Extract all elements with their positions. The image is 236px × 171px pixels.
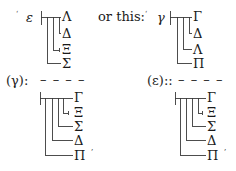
tree4-leaf: Γ bbox=[207, 91, 216, 104]
tree1-leaf: Σ bbox=[62, 57, 71, 70]
epsilon-label: (ε):: bbox=[147, 74, 173, 87]
tree3-lines bbox=[40, 92, 73, 155]
dash-placeholder: – – – – bbox=[40, 73, 85, 86]
open-quote: ‘ bbox=[16, 11, 18, 18]
tree3-leaf: Σ bbox=[74, 120, 83, 133]
close-quote: ’ bbox=[224, 149, 226, 156]
close-quote: ’ bbox=[91, 149, 93, 156]
tree1-leaf: Δ bbox=[62, 27, 71, 40]
tree1-leaf: Ξ bbox=[62, 43, 71, 56]
tree4-leaf: Δ bbox=[207, 134, 216, 147]
tree4-lines bbox=[175, 92, 206, 155]
connector-text: or this: bbox=[98, 10, 145, 23]
tree2-leaf: Δ bbox=[193, 27, 202, 40]
tree2-lines bbox=[170, 11, 192, 63]
tree3-leaf: Ξ bbox=[74, 106, 83, 119]
tree4-leaf: Π bbox=[207, 149, 218, 162]
tree3-leaf: Γ bbox=[74, 91, 83, 104]
tree1-root: ε bbox=[26, 11, 33, 24]
tree2-leaf: Γ bbox=[193, 10, 202, 23]
tree4-leaf: Ξ bbox=[207, 106, 216, 119]
tree3-leaf: Δ bbox=[74, 134, 83, 147]
tree2-leaf: Λ bbox=[193, 43, 202, 56]
tree2-leaf: Π bbox=[193, 57, 204, 70]
open-quote: ‘ bbox=[145, 11, 147, 18]
dash-placeholder: – – – – bbox=[178, 73, 223, 86]
tree4-leaf: Σ bbox=[207, 120, 216, 133]
gamma-label: (γ): bbox=[6, 74, 28, 87]
tree1-lines bbox=[41, 11, 61, 63]
tree2-root: γ bbox=[157, 11, 165, 24]
tree3-leaf: Π bbox=[74, 149, 85, 162]
tree1-leaf: Λ bbox=[62, 10, 71, 23]
